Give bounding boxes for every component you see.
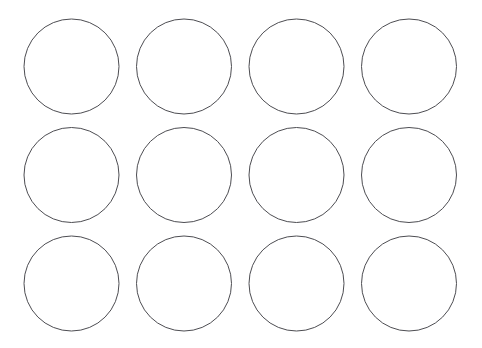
circle-r2-c2[interactable] bbox=[137, 128, 232, 223]
circle-r3-c4[interactable] bbox=[362, 236, 457, 331]
template-sheet bbox=[0, 0, 482, 348]
circle-r1-c1[interactable] bbox=[24, 19, 119, 114]
circle-r2-c3[interactable] bbox=[249, 128, 344, 223]
circle-r3-c3[interactable] bbox=[249, 236, 344, 331]
circle-r3-c2[interactable] bbox=[137, 236, 232, 331]
circle-r1-c3[interactable] bbox=[249, 19, 344, 114]
circle-r1-c2[interactable] bbox=[137, 19, 232, 114]
circle-r2-c1[interactable] bbox=[24, 128, 119, 223]
circle-r3-c1[interactable] bbox=[24, 236, 119, 331]
circle-grid bbox=[0, 0, 482, 348]
circle-r1-c4[interactable] bbox=[362, 19, 457, 114]
circle-r2-c4[interactable] bbox=[362, 128, 457, 223]
